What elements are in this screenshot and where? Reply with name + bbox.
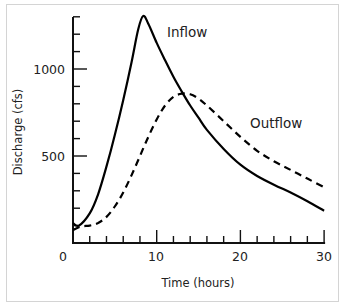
- x-tick-label-20: 20: [232, 249, 248, 264]
- inflow-label: Inflow: [167, 24, 207, 40]
- x-tick-label-30: 30: [316, 249, 332, 264]
- y-axis-title: Discharge (cfs): [11, 89, 25, 176]
- x-tick-label-0: 0: [59, 249, 67, 264]
- x-axis-title: Time (hours): [160, 276, 234, 290]
- y-tick-label-1000: 1000: [33, 62, 65, 77]
- y-tick-label-500: 500: [41, 149, 65, 164]
- x-tick-label-10: 10: [148, 249, 164, 264]
- hydrograph-chart: 1000 500 0 10 20 30 Time (hours) Dischar…: [0, 0, 343, 308]
- outflow-label: Outflow: [250, 115, 302, 131]
- outflow-curve: [73, 93, 324, 229]
